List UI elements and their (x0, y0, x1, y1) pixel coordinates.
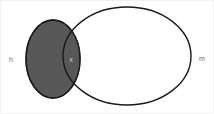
set-m-label: m (199, 55, 205, 62)
intersection-label: x (69, 56, 73, 63)
venn-diagram-canvas: h x m (0, 0, 214, 114)
venn-diagram-svg: h x m (1, 1, 214, 114)
set-h-label: h (9, 56, 13, 63)
set-m-ellipse[interactable] (63, 7, 191, 105)
